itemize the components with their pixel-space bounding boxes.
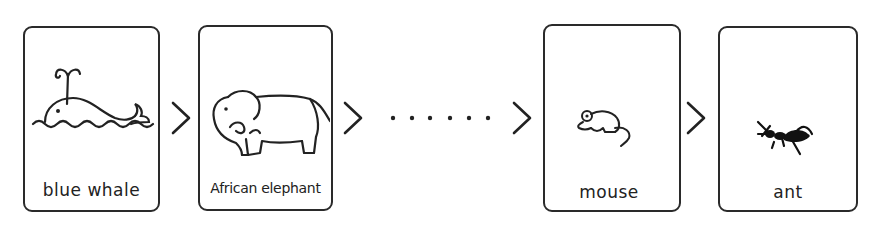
elephant-icon (206, 87, 330, 161)
card-label: mouse (539, 182, 679, 202)
card-ant: ant (718, 26, 858, 212)
ellipsis-dots (388, 113, 498, 123)
card-label: ant (720, 182, 856, 202)
card-label: African elephant (200, 180, 331, 196)
ant-icon (756, 118, 818, 160)
chevron-right-icon (511, 100, 533, 136)
card-label: blue whale (25, 180, 158, 200)
mouse-icon (575, 106, 639, 148)
chevron-right-icon (342, 100, 364, 136)
chevron-right-icon (685, 100, 707, 136)
card-mouse: mouse (543, 24, 681, 212)
card-blue-whale: blue whale (23, 26, 160, 212)
chevron-right-icon (170, 100, 192, 136)
card-african-elephant: African elephant (198, 25, 333, 211)
whale-icon (31, 64, 155, 130)
